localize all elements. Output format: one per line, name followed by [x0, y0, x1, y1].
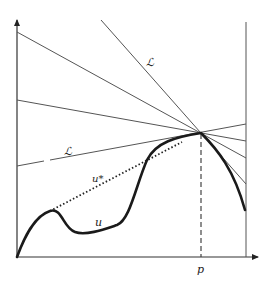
label-line-upper: ℒ: [146, 56, 155, 69]
support-line-lower-left: [17, 161, 44, 166]
support-line-1: [17, 32, 246, 158]
curve-u: [17, 133, 245, 257]
concave-envelope-diagram: ℒ ℒ u* u p: [0, 0, 275, 282]
label-p: p: [197, 263, 204, 276]
label-line-lower: ℒ: [64, 145, 73, 158]
label-u-star: u*: [92, 173, 103, 184]
support-line-2: [17, 100, 246, 141]
label-u: u: [95, 216, 102, 229]
